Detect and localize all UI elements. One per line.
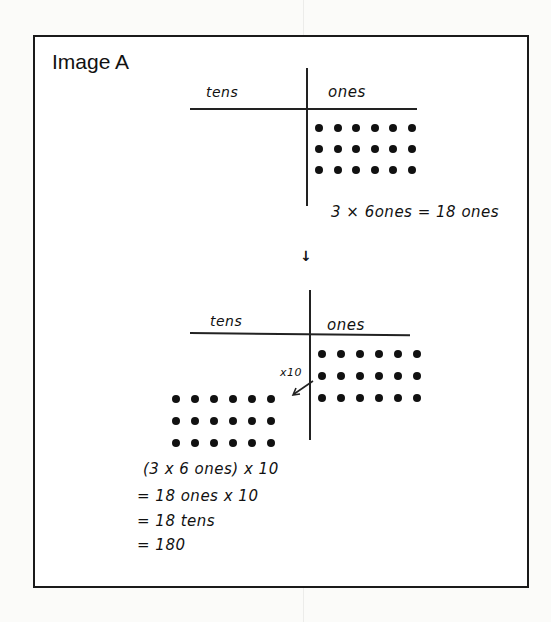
work-line-2: = 18 ones x 10 bbox=[137, 487, 258, 505]
shift-arrow-icon bbox=[0, 0, 551, 622]
work-line-3: = 18 tens bbox=[137, 512, 215, 530]
work-line-4: = 180 bbox=[137, 536, 185, 554]
work-line-1: (3 x 6 ones) x 10 bbox=[143, 460, 279, 478]
